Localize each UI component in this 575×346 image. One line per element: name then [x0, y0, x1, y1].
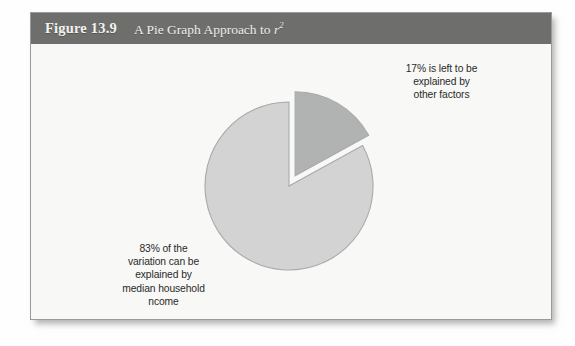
scanned-page-background: Figure 13.9 A Pie Graph Approach to r2 1…	[0, 0, 575, 346]
figure-title-text: A Pie Graph Approach to	[134, 21, 274, 36]
annotation-other-factors-line-3: other factors	[364, 88, 519, 101]
annotation-variation-line-3: explained by	[76, 268, 251, 281]
figure-title-superscript: 2	[279, 20, 283, 30]
annotation-variation-explained: 83% of the variation can be explained by…	[76, 242, 251, 308]
annotation-variation-line-5: ncome	[76, 295, 251, 308]
figure-header-bar: Figure 13.9 A Pie Graph Approach to r2	[31, 13, 551, 44]
figure-number-label: Figure 13.9	[45, 20, 117, 37]
annotation-other-factors-line-2: explained by	[364, 75, 519, 88]
annotation-other-factors: 17% is left to be explained by other fac…	[364, 62, 519, 102]
figure-body: 17% is left to be explained by other fac…	[31, 44, 551, 319]
annotation-variation-line-1: 83% of the	[76, 242, 251, 255]
figure-panel: Figure 13.9 A Pie Graph Approach to r2 1…	[30, 12, 552, 320]
annotation-variation-line-4: median household	[76, 282, 251, 295]
figure-title: A Pie Graph Approach to r2	[134, 20, 283, 38]
annotation-other-factors-line-1: 17% is left to be	[364, 62, 519, 75]
annotation-variation-line-2: variation can be	[76, 255, 251, 268]
